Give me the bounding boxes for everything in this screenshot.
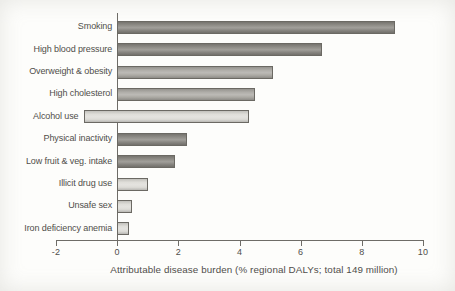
x-axis-tick-label: 6: [289, 247, 313, 257]
bar-high-cholesterol: [117, 88, 255, 101]
category-label: High blood pressure: [34, 44, 113, 54]
x-axis-tick-label: 10: [411, 247, 435, 257]
x-axis-title: Attributable disease burden (% regional …: [70, 264, 438, 275]
x-axis-tick-label: 4: [228, 247, 252, 257]
x-axis-tick: [423, 241, 424, 246]
category-label: Alcohol use: [33, 111, 78, 121]
bar-low-fruit-veg-intake: [117, 155, 175, 168]
bar-unsafe-sex: [117, 200, 132, 213]
category-label: High cholesterol: [49, 88, 112, 98]
x-axis-tick: [56, 241, 57, 246]
bar-illicit-drug-use: [117, 178, 148, 191]
x-axis-tick: [240, 241, 241, 246]
category-label: Low fruit & veg. intake: [26, 156, 112, 166]
category-label: Physical inactivity: [44, 133, 113, 143]
category-label: Unsafe sex: [68, 200, 112, 210]
category-label: Overweight & obesity: [29, 66, 112, 76]
bar-overweight-obesity: [117, 66, 273, 79]
bar-smoking: [117, 21, 395, 34]
x-axis-tick: [362, 241, 363, 246]
x-axis-tick: [117, 241, 118, 246]
x-axis-tick-label: 2: [166, 247, 190, 257]
category-label: Smoking: [78, 21, 112, 31]
plot-area: -20246810SmokingHigh blood pressureOverw…: [0, 0, 455, 291]
x-axis-tick: [301, 241, 302, 246]
category-label: Iron deficiency anemia: [24, 223, 112, 233]
bar-high-blood-pressure: [117, 43, 322, 56]
bar-alcohol-use: [84, 110, 249, 123]
risk-factor-bar-chart: -20246810SmokingHigh blood pressureOverw…: [0, 0, 455, 291]
x-axis-tick-label: 0: [105, 247, 129, 257]
x-axis-tick: [178, 241, 179, 246]
bar-physical-inactivity: [117, 133, 187, 146]
bar-iron-deficiency-anemia: [117, 222, 129, 235]
category-label: Illicit drug use: [59, 178, 112, 188]
x-axis-tick-label: -2: [44, 247, 68, 257]
x-axis-tick-label: 8: [350, 247, 374, 257]
